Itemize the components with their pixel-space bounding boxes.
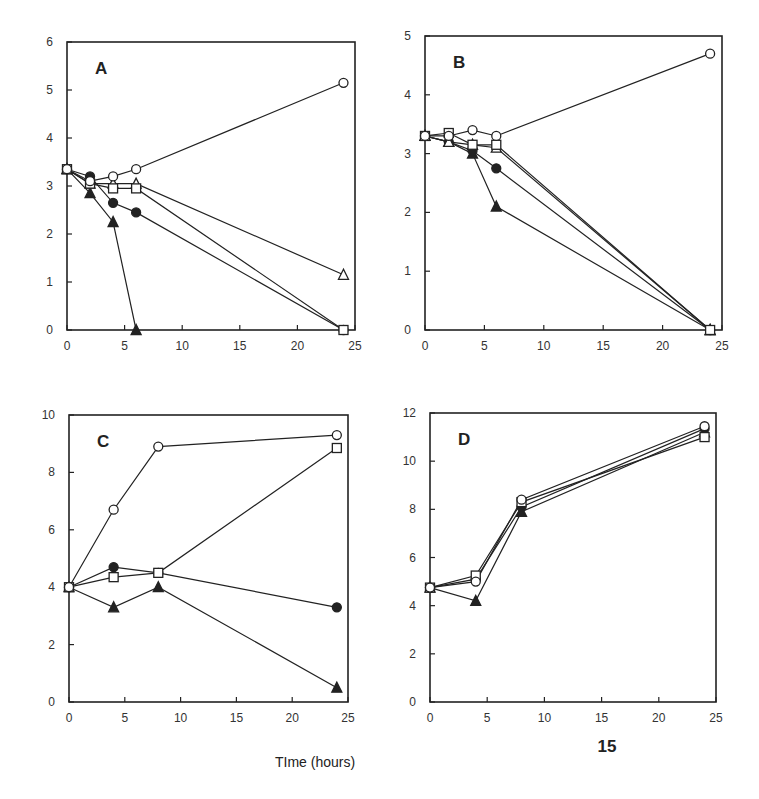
y-tick-label: 12 [403,406,417,420]
open-circle-marker [154,442,163,451]
open-circle-marker [471,577,480,586]
filled-triangle-marker [109,602,119,612]
panel-d: 0510152025024681012D [403,406,723,725]
open-circle-marker [426,583,435,592]
plot-frame [430,413,716,702]
y-tick-label: 8 [409,502,416,516]
filled-triangle-marker [153,582,163,592]
x-tick-label: 10 [537,339,551,353]
filled-circle-marker [492,164,501,173]
x-tick-label: 0 [64,339,71,353]
open-circle-marker [517,495,526,504]
x-tick-label: 15 [595,711,609,725]
open-square-marker [339,326,348,335]
filled-triangle-marker [491,201,501,211]
y-tick-label: 4 [46,131,53,145]
open-circle-marker [421,131,430,140]
open-circle-marker [132,165,141,174]
series-line [69,587,337,687]
open-square-marker [109,573,118,582]
filled-circle-marker [132,208,141,217]
filled-triangle-marker [332,682,342,692]
series-line [425,136,710,330]
open-triangle-marker [338,269,348,279]
open-square-marker [700,433,709,442]
filled-circle-marker [332,603,341,612]
x-tick-label: 0 [66,711,73,725]
open-square-marker [132,184,141,193]
x-tick-label: 0 [427,711,434,725]
open-circle-marker [492,131,501,140]
y-tick-label: 10 [42,408,56,422]
y-tick-label: 2 [404,205,411,219]
filled-circle-marker [109,563,118,572]
y-tick-label: 3 [404,147,411,161]
y-tick-label: 0 [409,695,416,709]
y-tick-label: 4 [409,599,416,613]
x-tick-label: 10 [176,339,190,353]
y-tick-label: 0 [48,695,55,709]
open-circle-marker [339,78,348,87]
y-tick-label: 10 [403,454,417,468]
open-circle-marker [109,505,118,514]
x-tick-label: 0 [422,339,429,353]
open-circle-marker [706,49,715,58]
x-tick-label: 25 [348,339,362,353]
x-tick-label: 20 [286,711,300,725]
open-circle-marker [63,165,72,174]
x-axis-title: TIme (hours) [275,754,355,770]
y-tick-label: 2 [46,227,53,241]
x-tick-label: 15 [233,339,247,353]
panel-c: 05101520250246810C [42,408,355,725]
x-tick-label: 20 [291,339,305,353]
series-line [425,54,710,136]
x-tick-label: 15 [597,339,611,353]
y-tick-label: 6 [48,523,55,537]
y-tick-label: 5 [46,83,53,97]
series-line [425,136,710,330]
open-square-marker [468,140,477,149]
figure-canvas: 05101520250123456A0510152025012345B05101… [0,0,759,799]
x-tick-label: 5 [121,711,128,725]
y-tick-label: 4 [48,580,55,594]
series-line [430,437,705,588]
y-tick-label: 1 [46,275,53,289]
y-tick-label: 8 [48,465,55,479]
x-tick-label: 25 [709,711,723,725]
series-line [67,83,343,181]
open-square-marker [706,326,715,335]
open-square-marker [109,184,118,193]
panel-label: A [95,59,107,78]
y-tick-label: 6 [409,551,416,565]
series-line [425,133,710,330]
page-number: 15 [598,737,617,756]
series-line [430,429,705,588]
x-tick-label: 25 [715,339,729,353]
x-tick-label: 10 [538,711,552,725]
panel-a: 05101520250123456A [46,35,362,353]
y-tick-label: 6 [46,35,53,49]
filled-circle-marker [109,198,118,207]
x-tick-label: 5 [121,339,128,353]
chart-panels: 05101520250123456A0510152025012345B05101… [42,29,729,725]
x-tick-label: 15 [230,711,244,725]
plot-frame [69,415,348,702]
y-tick-label: 0 [46,323,53,337]
open-square-marker [332,444,341,453]
y-tick-label: 1 [404,264,411,278]
y-tick-label: 0 [404,323,411,337]
plot-frame [425,36,722,330]
open-circle-marker [65,583,74,592]
open-square-marker [492,140,501,149]
open-circle-marker [332,431,341,440]
panel-label: B [453,53,465,72]
x-tick-label: 25 [341,711,355,725]
open-square-marker [154,568,163,577]
open-circle-marker [86,177,95,186]
panel-label: D [458,430,470,449]
x-tick-label: 10 [174,711,188,725]
open-circle-marker [468,126,477,135]
y-tick-label: 4 [404,88,411,102]
x-tick-label: 20 [652,711,666,725]
panel-b: 0510152025012345B [404,29,729,353]
